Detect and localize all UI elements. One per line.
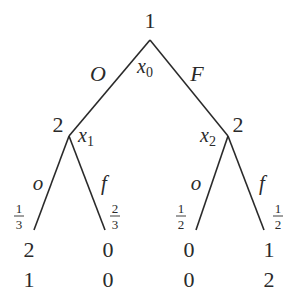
payoff-leaf-2: 0 0 [103,237,114,292]
action-label-x2-f: f [259,171,268,195]
game-tree-diagram: 1 x0 O F 2 x1 o f 2 x2 o f 1 3 2 3 1 2 1… [0,0,297,307]
root-node-label: x0 [136,55,153,80]
svg-text:3: 3 [112,217,119,232]
prob-fraction-x2-o: 1 2 [176,201,186,232]
svg-text:0: 0 [184,267,195,292]
svg-text:0: 0 [184,237,195,262]
root-player-label: 1 [145,8,156,33]
x1-node-label: x1 [77,124,94,149]
payoff-leaf-4: 1 2 [264,237,275,292]
prob-fraction-x1-o: 1 3 [14,201,24,232]
prob-fraction-x2-f: 1 2 [273,201,283,232]
svg-text:2: 2 [275,217,282,232]
svg-text:1: 1 [264,237,275,262]
svg-text:2: 2 [178,217,185,232]
svg-text:1: 1 [178,201,185,216]
action-label-O: O [90,61,106,86]
svg-text:0: 0 [103,267,114,292]
x2-node-label: x2 [199,124,216,149]
action-label-x2-o: o [191,171,202,195]
svg-text:1: 1 [275,201,282,216]
payoff-leaf-3: 0 0 [184,237,195,292]
svg-text:2: 2 [112,201,119,216]
x2-player-label: 2 [233,112,244,137]
svg-text:2: 2 [264,267,275,292]
action-label-x1-f: f [101,171,110,195]
svg-text:2: 2 [24,237,35,262]
edge-x1-f [69,136,105,230]
svg-text:3: 3 [16,217,23,232]
payoff-leaf-1: 2 1 [24,237,35,292]
action-label-F: F [189,61,204,86]
svg-text:0: 0 [103,237,114,262]
svg-text:1: 1 [16,201,23,216]
prob-fraction-x1-f: 2 3 [110,201,120,232]
action-label-x1-o: o [33,171,44,195]
edge-root-F [150,40,228,136]
x1-player-label: 2 [53,112,64,137]
svg-text:1: 1 [24,267,35,292]
